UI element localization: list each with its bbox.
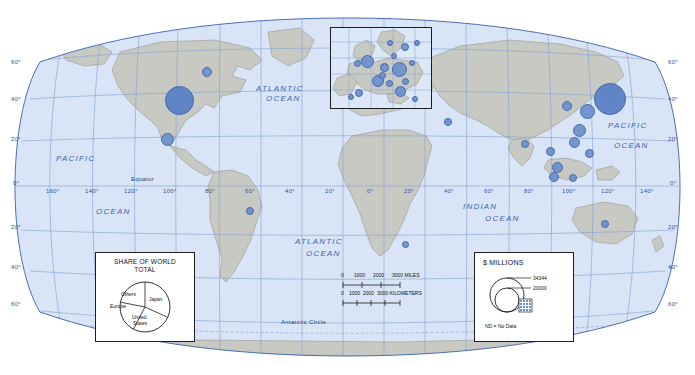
- lon-label-40e: 40°: [444, 188, 454, 194]
- lat-label-left-40s: 40°: [11, 264, 21, 270]
- lon-label-100e: 100°: [562, 188, 576, 194]
- lat-label-right-60n: 60°: [668, 59, 678, 65]
- label-equator: Equator: [131, 176, 154, 182]
- bubble-greece: [412, 96, 418, 102]
- pie-slice-label-japan: Japan: [149, 296, 163, 302]
- bubble-finland: [414, 40, 420, 46]
- bubble-japan: [594, 83, 626, 115]
- bubble-portugal: [348, 94, 354, 100]
- bubble-hong-kong: [569, 137, 580, 148]
- bubble-indonesia: [569, 174, 577, 182]
- lon-label-140e: 140°: [640, 188, 654, 194]
- bubble-switzerland: [386, 80, 393, 87]
- symbol-legend-nd-note: ND = No Data: [485, 323, 516, 329]
- scale-miles-tick-2000: 2000: [373, 272, 384, 278]
- label-atlantic-ocean-south-1: ATLANTIC: [295, 237, 343, 246]
- scale-miles-tick-0: 0: [341, 272, 344, 278]
- lat-label-right-0: 0°: [670, 180, 676, 186]
- lat-label-left-60s: 60°: [11, 301, 21, 307]
- scale-km-tick-2000: 2000: [363, 290, 374, 296]
- scale-bar-legend: 0 1000 2000 3000 MILES 0 1000 2000 3000 …: [338, 272, 448, 314]
- label-atlantic-ocean-north-1: ATLANTIC: [256, 84, 304, 93]
- scale-miles-tick-1000: 1000: [354, 272, 365, 278]
- bubble-spain: [355, 89, 363, 97]
- label-atlantic-ocean-south-2: OCEAN: [306, 249, 340, 258]
- lon-label-60e: 60°: [484, 188, 494, 194]
- bubble-china: [562, 101, 572, 111]
- bubble-south-africa: [402, 241, 409, 248]
- bubble-uk: [361, 55, 374, 68]
- pie-slice-label-others: Others: [121, 291, 136, 297]
- lon-label-40w: 40°: [285, 188, 295, 194]
- label-pacific-ocean-west-2: OCEAN: [96, 207, 130, 216]
- bubble-norway: [387, 40, 393, 46]
- scale-km-tick-3000: 3000 KILOMETERS: [377, 290, 422, 296]
- lat-label-right-20n: 20°: [668, 136, 678, 142]
- bubble-taiwan: [573, 124, 586, 137]
- map-figure: ATLANTIC OCEAN PACIFIC OCEAN ATLANTIC OC…: [0, 0, 695, 375]
- bubble-brazil: [246, 207, 254, 215]
- pie-slice-label-states: States: [133, 320, 147, 326]
- scale-miles-tick-3000: 3000 MILES: [392, 272, 420, 278]
- lat-label-right-40s: 40°: [668, 264, 678, 270]
- label-antarctic-circle: Antarctic Circle: [281, 319, 326, 325]
- label-pacific-ocean-east-1: PACIFIC: [608, 121, 647, 130]
- lon-label-60w: 60°: [245, 188, 255, 194]
- lat-label-right-40n: 40°: [668, 96, 678, 102]
- bubble-austria: [402, 78, 409, 85]
- share-of-world-total-legend: SHARE OF WORLD TOTAL Others Japan Europe…: [95, 252, 195, 342]
- lon-label-80e: 80°: [524, 188, 534, 194]
- bubble-thailand: [546, 147, 555, 156]
- pie-legend-title-line2: TOTAL: [96, 266, 194, 273]
- lat-label-right-20s: 20°: [668, 224, 678, 230]
- bubble-israel: [444, 118, 452, 126]
- lon-label-120w: 120°: [124, 188, 138, 194]
- lat-label-left-20n: 20°: [11, 136, 21, 142]
- lat-label-left-0: 0°: [13, 180, 19, 186]
- lon-label-0: 0°: [367, 188, 373, 194]
- lon-label-140w: 140°: [85, 188, 99, 194]
- label-indian-ocean-2: OCEAN: [485, 214, 519, 223]
- bubble-united-states: [165, 86, 194, 115]
- bubble-australia: [601, 220, 609, 228]
- label-atlantic-ocean-north-2: OCEAN: [266, 94, 300, 103]
- pie-legend-title-line1: SHARE OF WORLD: [96, 258, 194, 265]
- symbol-legend-title: $ MILLIONS: [475, 259, 573, 266]
- lat-label-left-40n: 40°: [11, 96, 21, 102]
- bubble-mexico: [161, 133, 174, 146]
- lat-label-right-60s: 60°: [668, 301, 678, 307]
- lat-label-left-60n: 60°: [11, 59, 21, 65]
- bubble-germany: [392, 62, 407, 77]
- bubble-canada: [202, 67, 212, 77]
- label-pacific-ocean-west-1: PACIFIC: [56, 154, 95, 163]
- bubble-poland: [409, 60, 415, 66]
- symbol-size-legend: $ MILLIONS 34344 20000 ND = No Data: [474, 252, 574, 342]
- lon-label-80w: 80°: [205, 188, 215, 194]
- bubble-denmark: [391, 53, 397, 59]
- bubble-italy: [395, 86, 406, 97]
- lon-label-20w: 20°: [325, 188, 335, 194]
- lon-label-20e: 20°: [404, 188, 414, 194]
- bubble-belgium: [379, 72, 386, 79]
- pie-slice-label-europe: Europe: [110, 303, 126, 309]
- lon-label-160w: 160°: [46, 188, 60, 194]
- lon-label-120e: 120°: [601, 188, 615, 194]
- bubble-south-korea: [580, 104, 595, 119]
- scale-km-tick-1000: 1000: [349, 290, 360, 296]
- lon-label-100w: 100°: [163, 188, 177, 194]
- symbol-legend-max-value: 34344: [533, 275, 547, 281]
- bubble-sweden: [401, 43, 409, 51]
- label-indian-ocean-1: INDIAN: [463, 202, 497, 211]
- bubble-singapore: [549, 172, 559, 182]
- symbol-legend-mid-value: 20000: [533, 285, 547, 291]
- label-pacific-ocean-east-2: OCEAN: [614, 141, 648, 150]
- bubble-india: [521, 140, 529, 148]
- scale-km-tick-0: 0: [341, 290, 344, 296]
- lat-label-left-20s: 20°: [11, 224, 21, 230]
- bubble-ireland: [354, 60, 361, 67]
- bubble-malaysia: [552, 162, 563, 173]
- bubble-netherlands: [380, 63, 389, 72]
- bubble-philippines: [585, 149, 594, 158]
